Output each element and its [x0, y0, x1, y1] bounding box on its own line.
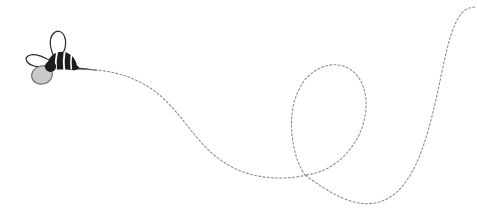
bee-flight-illustration: [0, 0, 477, 219]
bee-head-icon: [45, 61, 56, 72]
illustration-canvas: Bee with dashed flight path: [0, 0, 477, 219]
flight-trail-group: [74, 7, 476, 204]
flight-trail-dashed-path: [95, 7, 476, 204]
bee-group: [26, 31, 79, 86]
bee-stinger-icon: [76, 65, 79, 69]
